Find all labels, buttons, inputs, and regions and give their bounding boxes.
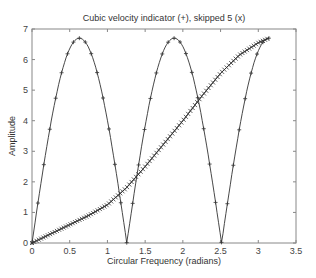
y-tick-label: 6 <box>23 55 28 65</box>
y-tick-label: 5 <box>23 85 28 95</box>
x-tick-label: 3.5 <box>290 246 303 256</box>
y-tick-label: 0 <box>23 238 28 248</box>
y-tick-label: 1 <box>23 207 28 217</box>
plot-frame <box>32 29 296 243</box>
x-axis-label: Circular Frequency (radians) <box>107 256 221 266</box>
x-tick-label: 3 <box>256 246 261 256</box>
x-tick-label: 1 <box>105 246 110 256</box>
y-tick-label: 4 <box>23 116 28 126</box>
chart-title: Cubic velocity indicator (+), skipped 5 … <box>83 13 245 23</box>
x-tick-label: 0.5 <box>63 246 76 256</box>
y-axis-label: Amplitude <box>7 116 17 156</box>
y-tick-label: 7 <box>23 24 28 34</box>
chart-svg: Cubic velocity indicator (+), skipped 5 … <box>0 0 316 278</box>
y-tick-label: 3 <box>23 146 28 156</box>
chart-figure: Cubic velocity indicator (+), skipped 5 … <box>0 0 316 278</box>
y-tick-label: 2 <box>23 177 28 187</box>
x-tick-label: 2 <box>180 246 185 256</box>
x-tick-label: 2.5 <box>214 246 227 256</box>
x-tick-label: 0 <box>29 246 34 256</box>
x-tick-label: 1.5 <box>139 246 152 256</box>
